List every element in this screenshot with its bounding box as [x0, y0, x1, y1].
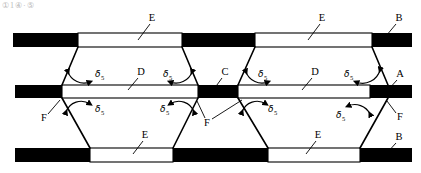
delta-subscript: 5	[169, 74, 172, 81]
diagonal-lower-right-b	[360, 98, 388, 148]
label-A-mid-right: A	[396, 68, 404, 79]
delta-subscript: 5	[101, 74, 104, 81]
leader-F-center-b	[212, 100, 242, 119]
label-B-top-right: B	[395, 12, 402, 23]
middle-bar-group	[15, 85, 412, 98]
label-B-bot-right: B	[395, 131, 402, 142]
angle-label-5: δ 5	[95, 104, 104, 116]
label-D-mid-right: D	[311, 66, 319, 77]
angle-label-3: δ 5	[258, 69, 267, 81]
top-bar-segment-white-1	[78, 33, 182, 47]
label-C-center: C	[221, 66, 228, 77]
angle-arc-8	[348, 105, 370, 114]
delta-subscript: 5	[166, 109, 169, 116]
delta-subscript: 5	[350, 74, 353, 81]
label-E-bot-right: E	[315, 129, 321, 140]
label-F-mid-left: F	[41, 112, 47, 123]
angle-label-4: δ 5	[344, 69, 353, 81]
delta-subscript: 5	[274, 109, 277, 116]
diagonal-lower-left-a	[62, 98, 90, 148]
bottom-bar-segment-black-3	[360, 148, 412, 162]
diagonal-lower-right-a	[238, 98, 268, 148]
label-F-center: F	[204, 117, 210, 128]
bottom-bar-segment-black-1	[15, 148, 90, 162]
bottom-bar-segment-white-2	[268, 148, 360, 162]
figure-canvas: ①1④·⑤	[0, 0, 421, 173]
delta-subscript: 5	[342, 115, 345, 122]
angle-label-2: δ 5	[163, 69, 172, 81]
top-bar-segment-black-2	[182, 33, 255, 47]
middle-bar-segment-black-2	[198, 85, 238, 98]
angle-label-1: δ 5	[95, 69, 104, 81]
leader-F-center-a	[197, 101, 205, 118]
angle-label-7: δ 5	[268, 104, 277, 116]
angle-arc-4	[356, 70, 380, 83]
label-E-top-right: E	[319, 12, 325, 23]
angle-label-6: δ 5	[160, 104, 169, 116]
leader-F-mid-right	[387, 101, 396, 113]
diagonal-upper-left-b	[182, 47, 198, 85]
angle-arc-2	[170, 72, 192, 83]
angle-label-8: δ 5	[336, 110, 345, 122]
middle-bar-segment-black-1	[15, 85, 62, 98]
diagonal-upper-left-a	[62, 47, 78, 85]
label-F-mid-right: F	[397, 111, 403, 122]
technical-diagram: E E B D C D A F F F E E B δ 5 δ 5	[0, 0, 421, 173]
bottom-bar-segment-white-1	[90, 148, 173, 162]
label-E-bot-left: E	[142, 129, 148, 140]
label-E-top-left: E	[149, 12, 155, 23]
delta-subscript: 5	[264, 74, 267, 81]
diagonal-upper-right-a	[238, 47, 255, 85]
bottom-bar-segment-black-2	[173, 148, 268, 162]
diagonal-lower-left-b	[173, 98, 198, 148]
top-bar-segment-black-3	[372, 33, 412, 47]
top-bar-segment-white-2	[255, 33, 372, 47]
angle-arc-6	[170, 101, 194, 112]
top-bar-segment-black-1	[13, 33, 78, 47]
delta-subscript: 5	[101, 109, 104, 116]
angle-arc-1	[68, 72, 90, 83]
leader-F-mid-left	[48, 100, 60, 114]
bottom-bar-group	[15, 148, 412, 162]
top-bar-group	[13, 33, 412, 47]
label-D-mid-left: D	[137, 66, 145, 77]
